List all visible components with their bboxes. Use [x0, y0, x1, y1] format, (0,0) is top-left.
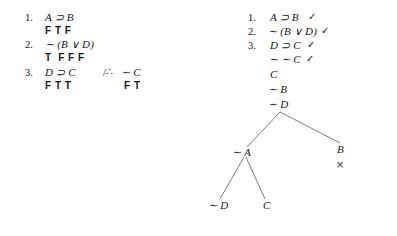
branch-node-not-a: ∼ A — [232, 146, 251, 159]
checkmark-icon: ✓ — [306, 53, 314, 64]
tree-formula: D ⊃ C — [270, 39, 301, 52]
line-number: 3. — [25, 67, 33, 78]
truth-values: F T F — [45, 25, 71, 36]
premise-formula: A ⊃ B — [45, 11, 74, 24]
exercise-page: 1. A ⊃ B F T F 2. ∼ (B ∨ D) T F F F 3. D… — [0, 0, 397, 236]
line-number: 2. — [25, 39, 33, 50]
line-number: 3. — [248, 40, 256, 51]
truth-assignment-block: 1. A ⊃ B F T F 2. ∼ (B ∨ D) T F F F 3. D… — [0, 0, 200, 110]
premise-formula: ∼ (B ∨ D) — [45, 38, 94, 51]
line-number: 1. — [248, 12, 256, 23]
truth-tree-block: 1. A ⊃ B ✓ 2. ∼ (B ∨ D) ✓ 3. D ⊃ C ✓ ∼ ∼… — [200, 0, 397, 236]
truth-values: T F F F — [45, 52, 85, 63]
checkmark-icon: ✓ — [307, 39, 315, 50]
tree-formula: A ⊃ B — [270, 11, 299, 24]
line-number: 1. — [25, 12, 33, 23]
checkmark-icon: ✓ — [321, 25, 329, 36]
checkmark-icon: ✓ — [308, 11, 316, 22]
closed-branch-mark: × — [336, 159, 344, 170]
premise-formula: D ⊃ C — [45, 66, 76, 79]
leaf-node-not-d: ∼ D — [208, 199, 228, 212]
tree-formula: ∼ B — [268, 83, 287, 96]
line-number: 2. — [248, 26, 256, 37]
branch-node-b: B — [337, 143, 344, 155]
tree-formula: ∼ (B ∨ D) — [268, 25, 317, 38]
tree-formula: ∼ D — [268, 98, 288, 111]
truth-values: F T T — [45, 80, 71, 91]
therefore-marker: /∴ — [103, 66, 113, 79]
conclusion-formula: ∼ C — [121, 66, 141, 79]
leaf-node-c: C — [263, 199, 271, 211]
tree-formula: ∼ ∼ C — [269, 53, 301, 66]
conclusion-truth-values: F T — [124, 80, 141, 91]
tree-formula: C — [270, 68, 278, 80]
